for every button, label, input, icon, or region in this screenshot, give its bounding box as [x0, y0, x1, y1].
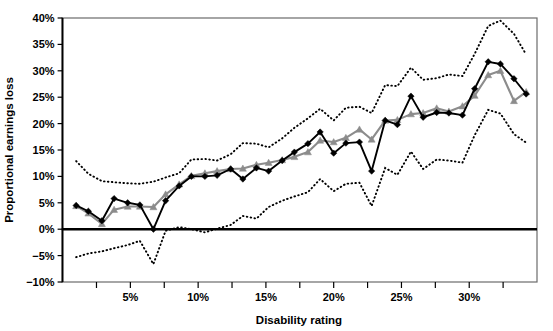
y-tick-label: 35%	[33, 38, 55, 50]
earnings-loss-line-chart: −10%−5%0%5%10%15%20%25%30%35%40% 5%10%15…	[0, 0, 553, 331]
y-tick-label: 10%	[33, 170, 55, 182]
y-tick-label: 25%	[33, 91, 55, 103]
y-tick-label: 5%	[39, 197, 55, 209]
y-tick-label: 40%	[33, 12, 55, 24]
y-axis-title: Proportional earnings loss	[3, 77, 15, 223]
y-tick-label: −10%	[26, 276, 55, 288]
x-tick-label: 20%	[323, 291, 345, 303]
x-tick-label: 15%	[255, 291, 277, 303]
y-tick-label: −5%	[32, 250, 55, 262]
y-tick-label: 0%	[39, 223, 55, 235]
chart-figure: −10%−5%0%5%10%15%20%25%30%35%40% 5%10%15…	[0, 0, 553, 331]
x-tick-label: 30%	[458, 291, 480, 303]
y-tick-label: 20%	[33, 118, 55, 130]
x-axis-title: Disability rating	[256, 314, 342, 326]
x-tick-label: 25%	[390, 291, 412, 303]
y-tick-label: 30%	[33, 65, 55, 77]
x-tick-label: 10%	[187, 291, 209, 303]
y-tick-label: 15%	[33, 144, 55, 156]
x-tick-label: 5%	[122, 291, 138, 303]
